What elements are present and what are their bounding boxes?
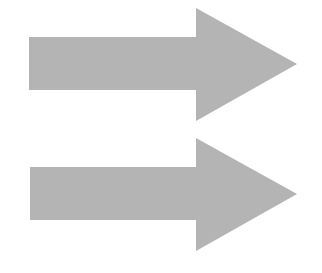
right-arrow-icon-top <box>29 8 297 121</box>
arrows-svg <box>0 0 322 273</box>
diagram-canvas <box>0 0 322 273</box>
right-arrow-icon-bottom <box>30 138 297 251</box>
